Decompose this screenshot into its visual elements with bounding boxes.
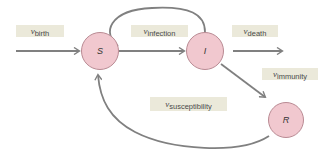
susceptibility-rate-label: νsusceptibility <box>150 97 227 111</box>
infection-subscript: infection <box>148 29 176 38</box>
birth-rate-label: νbirth <box>16 25 64 37</box>
immunity-subscript: immunity <box>277 72 307 81</box>
death-subscript: death <box>248 29 267 38</box>
susceptibility-subscript: susceptibility <box>169 102 212 111</box>
susceptibility-arc <box>98 75 269 148</box>
immunity-rate-label: νimmunity <box>262 68 318 80</box>
immunity-arrow <box>221 64 265 97</box>
node-infected: I <box>186 32 224 70</box>
node-label-s: S <box>97 46 103 56</box>
birth-subscript: birth <box>35 29 50 38</box>
infection-rate-label: νinfection <box>131 25 188 37</box>
node-recovered: R <box>268 102 304 138</box>
death-rate-label: νdeath <box>232 25 278 37</box>
node-label-i: I <box>204 46 207 56</box>
node-susceptible: S <box>81 32 119 70</box>
node-label-r: R <box>283 115 290 125</box>
